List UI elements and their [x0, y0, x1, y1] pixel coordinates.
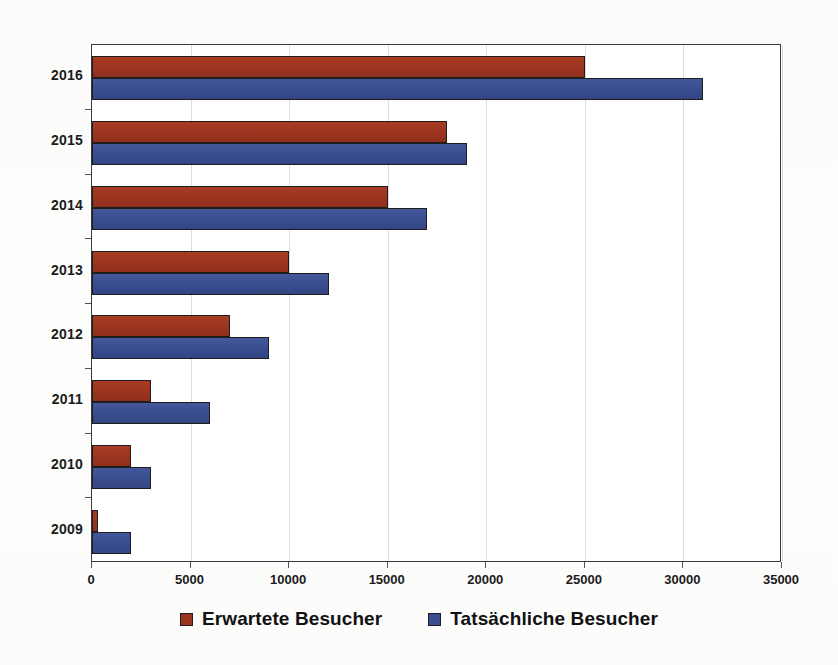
x-tick-mark — [485, 562, 486, 568]
x-tick-mark — [190, 562, 191, 568]
x-tick-label-25000: 25000 — [544, 572, 624, 587]
legend-swatch-icon — [428, 613, 441, 626]
gridline — [782, 45, 783, 561]
gridline — [486, 45, 487, 561]
bar-expected-2016 — [92, 56, 585, 78]
y-tick-label-2010: 2010 — [13, 456, 83, 472]
y-tick-label-2009: 2009 — [13, 521, 83, 537]
bar-expected-2010 — [92, 445, 131, 467]
legend-label: Erwartete Besucher — [202, 608, 382, 630]
x-tick-label-30000: 30000 — [642, 572, 722, 587]
legend-label: Tatsächliche Besucher — [450, 608, 658, 630]
x-tick-mark — [781, 562, 782, 568]
x-tick-label-15000: 15000 — [347, 572, 427, 587]
chart-legend: Erwartete BesucherTatsächliche Besucher — [0, 608, 838, 630]
y-tick-label-2011: 2011 — [13, 391, 83, 407]
legend-swatch-icon — [180, 613, 193, 626]
bar-actual-2011 — [92, 402, 210, 424]
bar-expected-2011 — [92, 380, 151, 402]
x-tick-mark — [91, 562, 92, 568]
x-tick-mark — [387, 562, 388, 568]
x-tick-mark — [288, 562, 289, 568]
y-tick-label-2014: 2014 — [13, 197, 83, 213]
bar-actual-2010 — [92, 467, 151, 489]
bar-expected-2012 — [92, 315, 230, 337]
x-tick-label-20000: 20000 — [445, 572, 525, 587]
gridline — [585, 45, 586, 561]
x-tick-label-10000: 10000 — [248, 572, 328, 587]
plot-inner — [92, 45, 780, 561]
bar-actual-2013 — [92, 273, 329, 295]
x-tick-mark — [584, 562, 585, 568]
bar-actual-2015 — [92, 143, 467, 165]
gridline — [683, 45, 684, 561]
legend-item-actual[interactable]: Tatsächliche Besucher — [428, 608, 658, 630]
bar-expected-2014 — [92, 186, 388, 208]
bar-actual-2016 — [92, 78, 703, 100]
x-tick-label-35000: 35000 — [741, 572, 821, 587]
chart-page: 20162015201420132012201120102009 0500010… — [0, 0, 838, 665]
bar-expected-2013 — [92, 251, 289, 273]
y-tick-label-2013: 2013 — [13, 262, 83, 278]
x-tick-mark — [682, 562, 683, 568]
y-tick-label-2015: 2015 — [13, 132, 83, 148]
bar-expected-2009 — [92, 510, 98, 532]
x-tick-label-0: 0 — [51, 572, 131, 587]
x-tick-label-5000: 5000 — [150, 572, 230, 587]
bar-actual-2012 — [92, 337, 269, 359]
legend-item-expected[interactable]: Erwartete Besucher — [180, 608, 382, 630]
y-tick-label-2016: 2016 — [13, 67, 83, 83]
bar-actual-2009 — [92, 532, 131, 554]
bar-expected-2015 — [92, 121, 447, 143]
y-tick-label-2012: 2012 — [13, 326, 83, 342]
plot-area — [91, 44, 781, 562]
bar-actual-2014 — [92, 208, 427, 230]
